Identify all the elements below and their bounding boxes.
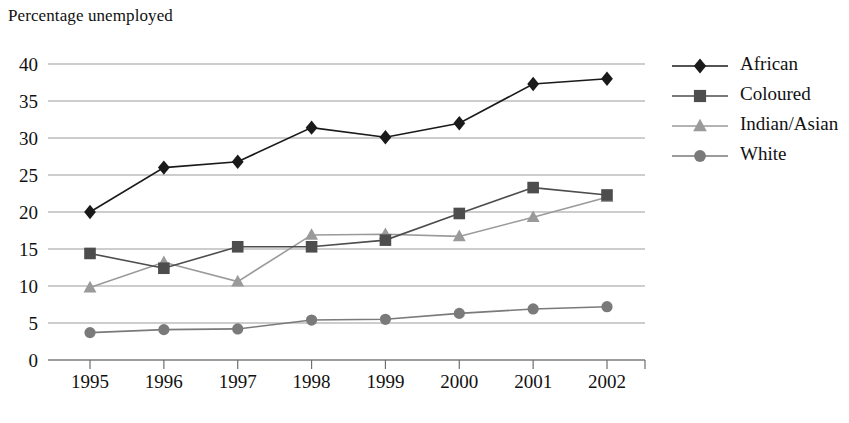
y-axis-tick-label: 0 — [29, 350, 39, 371]
legend-label: White — [740, 143, 786, 164]
data-point-marker-square — [694, 90, 706, 102]
legend-label: Indian/Asian — [740, 113, 839, 134]
x-axis-tick-labels: 19951996199719981999200020012002 — [71, 360, 626, 392]
data-point-marker-square — [84, 248, 96, 260]
y-axis-tick-label: 20 — [19, 202, 38, 223]
gridlines — [48, 64, 645, 360]
x-axis-tick-label: 2002 — [588, 371, 626, 392]
x-axis-tick-label: 1997 — [219, 371, 257, 392]
series-indian-asian — [84, 190, 614, 292]
data-point-marker-triangle — [305, 228, 318, 240]
series-line — [90, 188, 607, 269]
data-point-marker-square — [306, 241, 318, 253]
x-axis — [48, 360, 645, 369]
y-axis-tick-label: 30 — [19, 128, 38, 149]
data-point-marker-diamond — [453, 116, 465, 130]
data-point-marker-circle — [528, 303, 539, 314]
data-point-marker-circle — [232, 323, 243, 334]
data-point-marker-square — [453, 208, 465, 220]
line-chart-plot: 0510152025303540 19951996199719981999200… — [0, 0, 849, 423]
data-point-marker-circle — [380, 314, 391, 325]
data-point-marker-square — [158, 262, 170, 274]
legend-item-indian-asian: Indian/Asian — [672, 113, 839, 134]
data-point-marker-circle — [601, 301, 612, 312]
y-axis-tick-labels: 0510152025303540 — [19, 54, 38, 371]
x-axis-tick-label: 1999 — [366, 371, 404, 392]
legend-label: Coloured — [740, 83, 811, 104]
data-point-marker-diamond — [84, 205, 96, 219]
chart-legend: AfricanColouredIndian/AsianWhite — [672, 53, 839, 164]
data-point-marker-circle — [158, 324, 169, 335]
series-african — [84, 72, 613, 220]
data-point-marker-triangle — [693, 119, 707, 131]
data-point-marker-diamond — [380, 130, 392, 144]
legend-label: African — [740, 53, 799, 74]
x-axis-tick-label: 1996 — [145, 371, 183, 392]
data-point-marker-square — [527, 182, 539, 194]
y-axis-tick-label: 40 — [19, 54, 38, 75]
y-axis-tick-label: 5 — [29, 313, 39, 334]
y-axis-tick-label: 15 — [19, 239, 38, 260]
x-axis-tick-label: 2001 — [514, 371, 552, 392]
data-point-marker-circle — [694, 150, 706, 162]
y-axis-tick-label: 35 — [19, 91, 38, 112]
legend-item-african: African — [672, 53, 799, 74]
data-point-marker-circle — [454, 308, 465, 319]
data-point-marker-circle — [306, 314, 317, 325]
data-point-marker-diamond — [158, 160, 170, 174]
legend-item-coloured: Coloured — [672, 83, 811, 104]
data-point-marker-diamond — [232, 154, 244, 168]
legend-item-white: White — [672, 143, 786, 164]
data-point-marker-circle — [84, 327, 95, 338]
data-point-marker-diamond — [527, 77, 539, 91]
data-point-marker-diamond — [306, 120, 318, 134]
data-point-marker-diamond — [601, 72, 613, 86]
data-point-marker-diamond — [694, 58, 706, 73]
data-point-marker-square — [601, 189, 613, 201]
data-point-marker-square — [232, 241, 244, 253]
chart-container: Percentage unemployed 0510152025303540 1… — [0, 0, 849, 423]
series-white — [84, 301, 612, 338]
x-axis-tick-label: 1995 — [71, 371, 109, 392]
y-axis-tick-label: 25 — [19, 165, 38, 186]
data-series — [84, 72, 614, 339]
x-axis-tick-label: 1998 — [293, 371, 331, 392]
y-axis-tick-label: 10 — [19, 276, 38, 297]
x-axis-tick-label: 2000 — [440, 371, 478, 392]
data-point-marker-square — [380, 234, 392, 246]
